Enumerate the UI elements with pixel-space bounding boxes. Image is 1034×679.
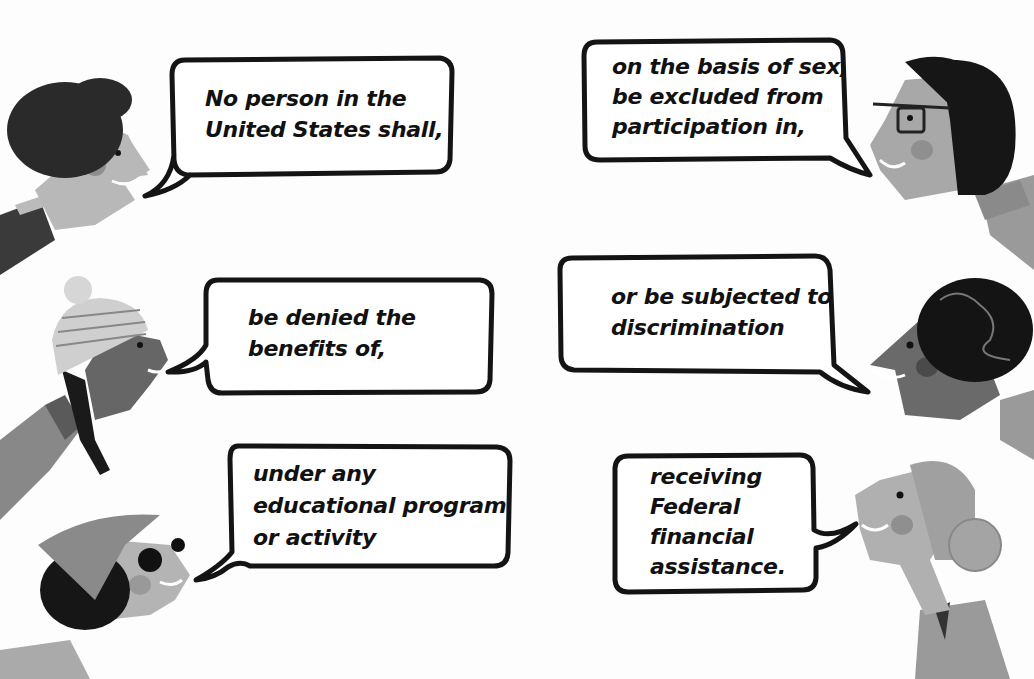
speech-bubble-6-text: receiving Federal financial assistance.: [650, 462, 786, 582]
bubble-5-line-1: under any: [253, 458, 506, 490]
bubble-5-line-3: or activity: [253, 522, 506, 554]
illustration-artwork: [0, 0, 1034, 679]
speech-bubble-2-text: on the basis of sex, be excluded from pa…: [612, 52, 848, 142]
bubble-4-line-2: discrimination: [611, 312, 832, 343]
bubble-3-line-1: be denied the: [248, 302, 416, 333]
bubble-4-line-1: or be subjected to: [611, 281, 832, 312]
bubble-1-line-1: No person in the: [205, 83, 443, 114]
bubble-1-line-2: United States shall,: [205, 114, 443, 145]
speech-bubble-1-text: No person in the United States shall,: [205, 83, 443, 145]
bubble-5-line-2: educational program: [253, 490, 506, 522]
speech-bubble-4-text: or be subjected to discrimination: [611, 281, 832, 343]
bubble-6-line-2: Federal: [650, 492, 786, 522]
title-ix-illustration: No person in the United States shall, on…: [0, 0, 1034, 679]
headscarf-sunglasses-woman-illustration: [0, 514, 190, 679]
glasses-bob-woman-illustration: [870, 57, 1034, 270]
bubble-2-line-2: be excluded from: [612, 82, 848, 112]
bubble-6-line-1: receiving: [650, 462, 786, 492]
speech-bubble-5-text: under any educational program or activit…: [253, 458, 506, 554]
bubble-6-line-3: financial: [650, 522, 786, 552]
bubble-2-line-1: on the basis of sex,: [612, 52, 848, 82]
curly-hair-person-illustration: [0, 78, 150, 275]
bubble-2-line-3: participation in,: [612, 112, 848, 142]
speech-bubble-3-text: be denied the benefits of,: [248, 302, 416, 364]
bubble-3-line-2: benefits of,: [248, 333, 416, 364]
beanie-braid-girl-illustration: [0, 276, 168, 520]
bun-hair-woman-illustration: [855, 461, 1010, 679]
curly-updo-woman-illustration: [870, 278, 1034, 460]
bubble-6-line-4: assistance.: [650, 552, 786, 582]
